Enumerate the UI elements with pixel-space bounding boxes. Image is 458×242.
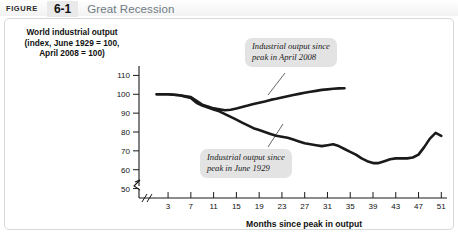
y-tick-label: 50 <box>121 185 130 194</box>
callout-1929: Industrial output since peak in June 192… <box>200 149 292 178</box>
x-tick-label: 7 <box>189 202 194 211</box>
x-axis-ticks: 371115192327313539434751 <box>166 192 446 211</box>
callout-2008-line-1: Industrial output since <box>252 41 330 52</box>
x-tick-label: 23 <box>277 202 286 211</box>
callout-2008: Industrial output since peak in April 20… <box>245 38 337 67</box>
chart-plot-area: 5060708090100110 37111519232731353943475… <box>0 0 458 242</box>
x-tick-label: 47 <box>414 202 423 211</box>
y-tick-label: 70 <box>121 147 130 156</box>
figure-label: FIGURE <box>6 4 38 13</box>
x-tick-label: 31 <box>323 202 332 211</box>
x-tick-label: 19 <box>255 202 264 211</box>
x-tick-label: 51 <box>437 202 446 211</box>
callout-2008-line-2: peak in April 2008 <box>252 52 330 63</box>
callout-1929-line-1: Industrial output since <box>207 152 285 163</box>
x-tick-label: 35 <box>346 202 355 211</box>
x-tick-label: 3 <box>166 202 171 211</box>
leader-line-2008 <box>268 73 285 95</box>
series-line-2008 <box>157 88 345 110</box>
x-tick-label: 27 <box>300 202 309 211</box>
callout-1929-line-2: peak in June 1929 <box>207 163 285 174</box>
x-tick-label: 15 <box>232 202 241 211</box>
x-tick-label: 39 <box>369 202 378 211</box>
y-tick-label: 100 <box>117 90 131 99</box>
y-tick-label: 80 <box>121 128 130 137</box>
x-axis-title: Months since peak in output <box>246 219 362 229</box>
y-tick-label: 90 <box>121 109 130 118</box>
y-axis-ticks: 5060708090100110 <box>117 71 139 193</box>
y-tick-label: 60 <box>121 166 130 175</box>
y-tick-label: 110 <box>117 71 130 80</box>
figure-number: 6-1 <box>47 1 78 17</box>
figure-title: Great Recession <box>87 3 174 15</box>
x-tick-label: 43 <box>391 202 400 211</box>
x-tick-label: 11 <box>209 202 218 211</box>
source-note <box>6 233 456 241</box>
